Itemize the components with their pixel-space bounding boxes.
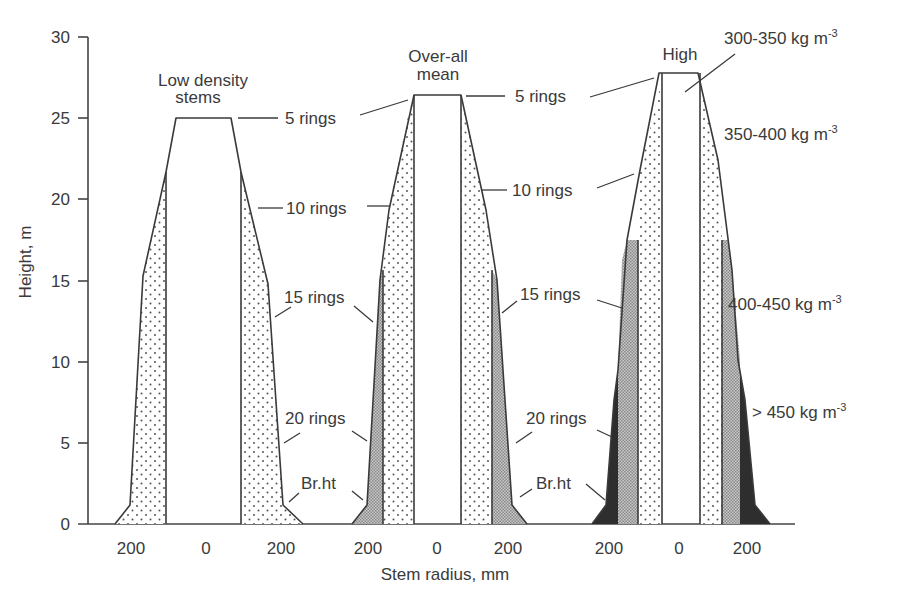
y-tick-15: 15 — [51, 272, 70, 291]
x-tick: 200 — [117, 539, 145, 558]
density-over-450: > 450 kg m-3 — [752, 401, 846, 422]
label-5-rings-a: 5 rings — [285, 109, 336, 128]
stem-low-title-2: stems — [175, 88, 220, 107]
label-10-rings-b: 10 rings — [512, 181, 572, 200]
x-tick: 0 — [201, 539, 210, 558]
x-tick: 200 — [354, 539, 382, 558]
ring-annotations: 5 rings 5 rings 10 rings 10 rings 15 rin… — [238, 78, 654, 502]
y-tick-10: 10 — [51, 353, 70, 372]
x-tick: 0 — [432, 539, 441, 558]
x-axis-ticks: 200 0 200 200 0 200 200 0 200 Stem radiu… — [117, 539, 761, 584]
y-axis: 30 25 20 15 10 5 0 Height, m — [16, 28, 88, 534]
stem-high-density: High — [592, 45, 770, 524]
density-300-350: 300-350 kg m-3 — [724, 27, 838, 48]
y-tick-0: 0 — [61, 515, 70, 534]
x-tick: 0 — [674, 539, 683, 558]
x-tick: 200 — [595, 539, 623, 558]
density-350-400: 350-400 kg m-3 — [724, 123, 838, 144]
label-brht-a: Br.ht — [301, 474, 336, 493]
y-tick-5: 5 — [61, 434, 70, 453]
stem-low-density: Low density stems — [115, 71, 303, 524]
y-tick-25: 25 — [51, 109, 70, 128]
y-tick-30: 30 — [51, 28, 70, 47]
label-15-rings-a: 15 rings — [284, 288, 344, 307]
x-tick: 200 — [494, 539, 522, 558]
label-20-rings-a: 20 rings — [285, 409, 345, 428]
stem-high-title: High — [663, 45, 698, 64]
label-15-rings-b: 15 rings — [520, 285, 580, 304]
label-20-rings-b: 20 rings — [526, 409, 586, 428]
stem-mean-title-1: Over-all — [408, 47, 468, 66]
y-axis-label: Height, m — [16, 226, 35, 299]
stem-mean-title-2: mean — [417, 65, 460, 84]
x-tick: 200 — [267, 539, 295, 558]
label-5-rings-b: 5 rings — [515, 87, 566, 106]
x-tick: 200 — [733, 539, 761, 558]
label-10-rings-a: 10 rings — [286, 199, 346, 218]
y-tick-20: 20 — [51, 190, 70, 209]
label-brht-b: Br.ht — [536, 474, 571, 493]
stem-density-diagram: 30 25 20 15 10 5 0 Height, m Low density… — [0, 0, 900, 602]
stem-overall-mean: Over-all mean — [352, 47, 527, 524]
x-axis-label: Stem radius, mm — [381, 565, 509, 584]
density-400-450: 400-450 kg m-3 — [728, 293, 842, 314]
